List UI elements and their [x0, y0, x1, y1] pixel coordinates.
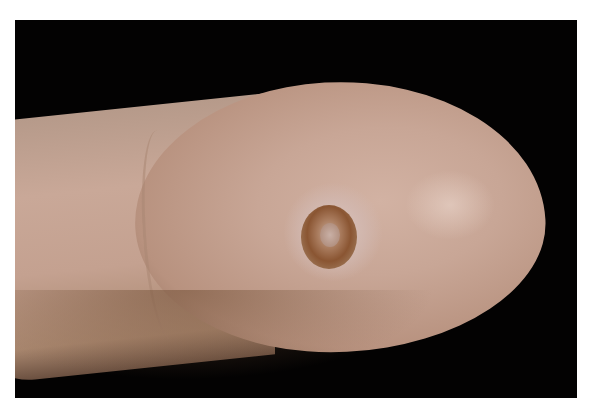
finger-shadow — [15, 290, 435, 380]
skin-highlight — [405, 170, 495, 240]
lesion-core — [320, 223, 340, 247]
clinical-photo — [15, 20, 577, 398]
